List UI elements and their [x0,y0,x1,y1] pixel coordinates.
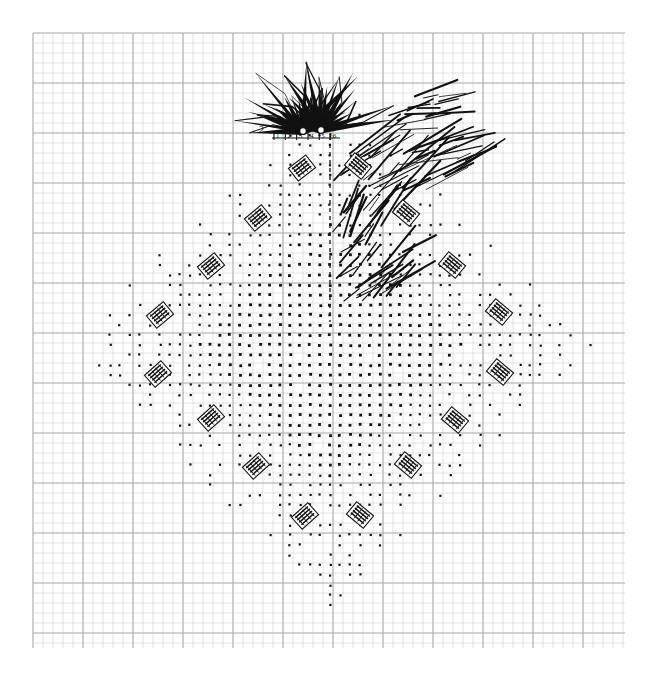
figure-canvas: 123456 2 [0,0,655,682]
scanned-diagram-svg: 123456 2 [0,0,655,682]
axis-label-2: 2 [259,124,264,135]
page-background [0,0,655,682]
